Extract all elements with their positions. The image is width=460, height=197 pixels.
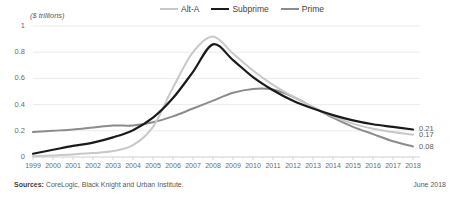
x-axis-tick-label: 2003 xyxy=(102,162,124,169)
end-label-subprime: 0.21 xyxy=(419,125,434,133)
x-axis-tick-label: 2005 xyxy=(142,162,164,169)
x-axis-tick-label: 2011 xyxy=(262,162,284,169)
x-axis-tick-label: 1999 xyxy=(22,162,44,169)
x-axis-tick-label: 2009 xyxy=(222,162,244,169)
footer-sources: Sources: CoreLogic, Black Knight and Urb… xyxy=(14,181,184,188)
x-axis-tick-label: 2015 xyxy=(342,162,364,169)
y-axis-tick-label: 0.2 xyxy=(1,127,25,135)
y-axis-tick-label: 0.4 xyxy=(1,101,25,109)
end-label-prime: 0.08 xyxy=(419,143,434,151)
y-axis-tick-label: 0.6 xyxy=(1,74,25,82)
x-axis-tick-label: 2006 xyxy=(162,162,184,169)
x-axis-tick-label: 2004 xyxy=(122,162,144,169)
x-axis-tick-label: 2016 xyxy=(362,162,384,169)
x-axis-tick-label: 2007 xyxy=(182,162,204,169)
x-axis-tick-label: 2017 xyxy=(382,162,404,169)
x-axis-tick-label: 2013 xyxy=(302,162,324,169)
series-line-prime xyxy=(33,88,413,146)
footer-sources-label: Sources: xyxy=(14,181,44,188)
x-axis-tick-label: 2012 xyxy=(282,162,304,169)
footer-date: June 2018 xyxy=(413,181,446,188)
x-axis-tick-label: 2002 xyxy=(82,162,104,169)
x-axis-tick-label: 2010 xyxy=(242,162,264,169)
x-axis-tick-label: 2000 xyxy=(42,162,64,169)
x-axis-tick-label: 2014 xyxy=(322,162,344,169)
y-axis-tick-label: 0 xyxy=(1,153,25,161)
y-axis-tick-label: 0.8 xyxy=(1,48,25,56)
series-line-subprime xyxy=(33,44,413,154)
chart-container: Alt-A Subprime Prime ($ trillions) 00.20… xyxy=(0,0,460,197)
footer-sources-text: CoreLogic, Black Knight and Urban Instit… xyxy=(44,181,184,188)
x-axis-tick-label: 2018 xyxy=(402,162,424,169)
x-axis-tick-label: 2008 xyxy=(202,162,224,169)
x-axis-tick-label: 2001 xyxy=(62,162,84,169)
y-axis-tick-label: 1 xyxy=(1,22,25,30)
